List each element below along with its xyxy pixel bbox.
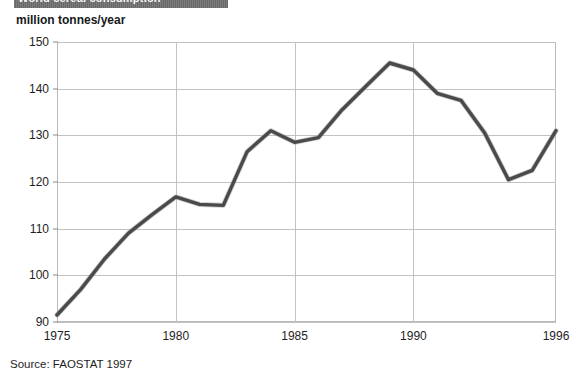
chart-title-band: World cereal consumption: [14, 0, 228, 8]
x-axis-tick-label: 1975: [44, 329, 71, 343]
gridline-horizontal: [57, 322, 556, 323]
y-axis-tick-label: 140: [29, 82, 49, 96]
source-note: Source: FAOSTAT 1997: [10, 358, 132, 370]
plot-area: 90100110120130140150 1975198019851990199…: [57, 42, 556, 322]
x-axis-tick-label: 1996: [543, 329, 570, 343]
y-axis-tick-label: 150: [29, 35, 49, 49]
y-axis-tick-label: 110: [30, 222, 49, 236]
y-axis-tick-label: 90: [36, 315, 49, 329]
y-axis-tick-label: 120: [29, 175, 49, 189]
chart-title-text: World cereal consumption: [18, 0, 161, 4]
x-axis-tick-label: 1980: [162, 329, 189, 343]
y-axis-tick-label: 130: [29, 128, 49, 142]
y-axis-tick-label: 100: [29, 268, 49, 282]
x-axis-tick-label: 1985: [281, 329, 308, 343]
x-axis-tick-label: 1990: [400, 329, 427, 343]
y-axis-unit-label: million tonnes/year: [16, 13, 125, 27]
data-series-line: [57, 42, 556, 322]
